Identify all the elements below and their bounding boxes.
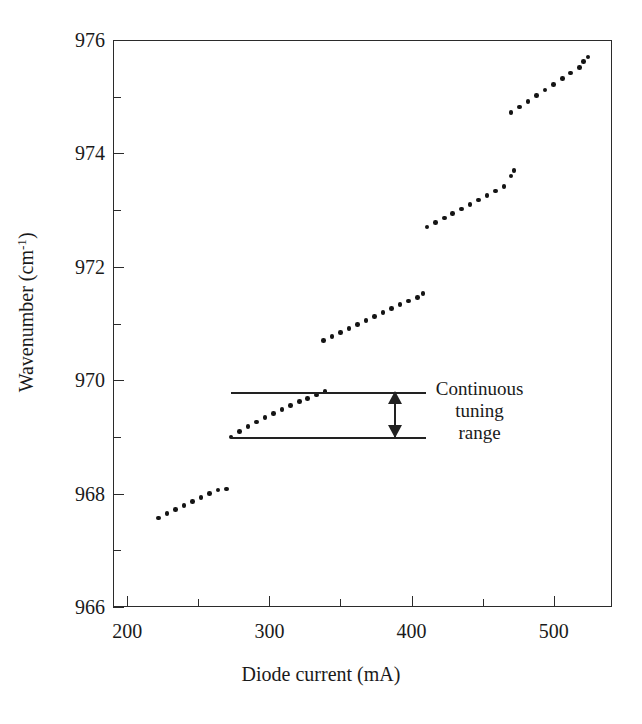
data-point: [421, 291, 426, 296]
y-tick-major: [113, 607, 124, 608]
data-point: [271, 411, 276, 416]
y-axis-title: Wavenumber (cm-1): [14, 132, 39, 492]
y-axis-title-text: Wavenumber (cm: [15, 250, 37, 392]
y-tick-minor: [113, 97, 121, 98]
annotation-text-line: Continuous: [436, 378, 524, 400]
data-point: [330, 334, 335, 339]
data-point: [476, 198, 481, 203]
data-point: [237, 429, 242, 434]
y-tick-label: 968: [75, 484, 105, 504]
data-point: [297, 399, 302, 404]
data-point: [321, 338, 326, 343]
data-point: [389, 306, 394, 311]
data-point: [182, 503, 187, 508]
x-tick-major: [269, 596, 270, 607]
data-point: [156, 516, 161, 521]
y-tick-label: 976: [75, 30, 105, 50]
y-tick-minor: [113, 324, 121, 325]
data-point: [442, 216, 447, 221]
y-tick-label: 966: [75, 597, 105, 617]
data-point: [190, 499, 195, 504]
x-tick-minor: [340, 599, 341, 607]
data-point: [551, 82, 556, 87]
x-tick-label: 200: [87, 621, 167, 641]
x-tick-label: 300: [229, 621, 309, 641]
x-tick-label: 400: [372, 621, 452, 641]
y-tick-major: [113, 494, 124, 495]
data-point: [512, 168, 517, 173]
y-tick-major: [113, 153, 124, 154]
data-point: [355, 322, 360, 327]
data-point: [338, 330, 343, 335]
y-tick-major: [113, 267, 124, 268]
data-point: [517, 105, 522, 110]
data-point: [406, 299, 411, 304]
x-tick-major: [127, 596, 128, 607]
x-tick-minor: [198, 599, 199, 607]
y-tick-minor: [113, 550, 121, 551]
y-tick-minor: [113, 210, 121, 211]
data-point: [502, 184, 507, 189]
y-axis-title-suffix: ): [15, 232, 37, 239]
data-point: [577, 65, 582, 70]
y-axis-title-superscript: -1: [14, 239, 29, 250]
x-axis-title: Diode current (mA): [0, 663, 642, 686]
data-point: [534, 93, 539, 98]
y-tick-minor: [113, 437, 121, 438]
data-point: [581, 59, 586, 64]
data-point: [485, 193, 490, 198]
data-point: [372, 314, 377, 319]
data-point: [347, 326, 352, 331]
data-point: [433, 220, 438, 225]
chart-figure: Wavenumber (cm-1) Diode current (mA) 966…: [0, 0, 642, 724]
data-point: [165, 511, 170, 516]
data-point: [305, 396, 310, 401]
arrow-head-down-icon: [388, 425, 402, 438]
x-tick-minor: [483, 599, 484, 607]
y-tick-major: [113, 380, 124, 381]
continuous-tuning-range-label: Continuoustuningrange: [436, 378, 524, 444]
x-tick-label: 500: [514, 621, 594, 641]
data-point: [288, 403, 293, 408]
data-point: [526, 99, 531, 104]
x-tick-major: [412, 596, 413, 607]
data-point: [493, 189, 498, 194]
data-point: [459, 207, 464, 212]
data-point: [450, 211, 455, 216]
plot-area: [113, 40, 612, 607]
arrow-head-up-icon: [388, 391, 402, 404]
data-point: [173, 507, 178, 512]
annotation-text-line: range: [436, 422, 524, 444]
annotation-text-line: tuning: [436, 400, 524, 422]
y-tick-major: [113, 40, 124, 41]
x-tick-major: [554, 596, 555, 607]
y-tick-label: 972: [75, 257, 105, 277]
y-tick-label: 974: [75, 143, 105, 163]
data-point: [468, 202, 473, 207]
data-point: [560, 76, 565, 81]
data-point: [415, 295, 420, 300]
y-tick-label: 970: [75, 370, 105, 390]
data-point: [207, 491, 212, 496]
